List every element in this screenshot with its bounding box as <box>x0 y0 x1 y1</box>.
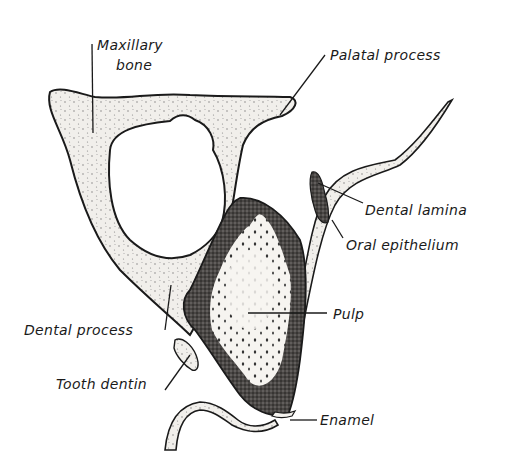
label-enamel: Enamel <box>320 413 374 427</box>
tooth-dentin-tip <box>174 339 198 370</box>
label-tooth-dentin: Tooth dentin <box>56 377 147 391</box>
label-maxillary-bone-line2: bone <box>116 58 152 72</box>
oral-epithelium <box>280 100 452 410</box>
label-dental-process: Dental process <box>24 323 133 337</box>
label-pulp: Pulp <box>333 307 364 321</box>
label-palatal-process: Palatal process <box>330 48 441 62</box>
label-dental-lamina: Dental lamina <box>365 203 467 217</box>
label-maxillary-bone: Maxillary <box>97 38 163 52</box>
tooth-development-diagram: Maxillary bone Palatal process Dental la… <box>0 0 505 475</box>
label-oral-epithelium: Oral epithelium <box>346 238 459 252</box>
